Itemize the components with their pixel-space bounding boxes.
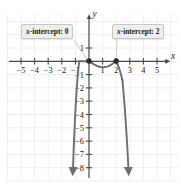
figure-container: −5 −4 −3 −2 −1 1 2 3 4 5 1 −1 −2 −3 −4 −… — [0, 0, 181, 187]
callout-text: -intercept: 2 — [121, 27, 160, 36]
x-tick-label: −5 — [17, 66, 26, 75]
x-tick-label: 4 — [141, 66, 146, 75]
x-intercept-dot-2 — [114, 58, 119, 63]
y-tick-label: −6 — [75, 137, 84, 146]
x-tick-label: −3 — [44, 66, 53, 75]
x-axis-label: x — [170, 51, 176, 61]
x-intercept-dot-0 — [86, 58, 91, 63]
x-axis-tick-labels: −5 −4 −3 −2 −1 1 2 3 4 5 — [17, 66, 160, 75]
callout-x-intercept-2: x-intercept: 2 — [112, 24, 164, 39]
y-tick-label: 1 — [80, 44, 84, 53]
x-tick-label: −4 — [30, 66, 40, 75]
y-tick-label: −7 — [75, 150, 84, 159]
y-tick-label: −1 — [75, 71, 84, 80]
y-tick-label: −4 — [75, 111, 85, 120]
callout-x-intercept-0: x-intercept: 0 — [21, 24, 73, 39]
y-tick-label: −8 — [75, 164, 84, 173]
x-tick-label: −2 — [57, 66, 66, 75]
callout-text: -intercept: 0 — [30, 27, 69, 36]
x-tick-label: 3 — [128, 66, 132, 75]
x-tick-label: 5 — [155, 66, 159, 75]
y-tick-label: −5 — [75, 124, 84, 133]
y-axis-tick-labels: 1 −1 −2 −3 −4 −5 −6 −7 −8 — [75, 44, 85, 173]
y-axis-label: y — [92, 9, 98, 19]
